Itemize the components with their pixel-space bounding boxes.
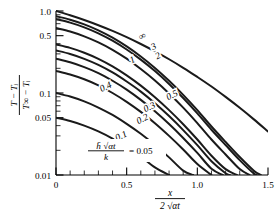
- x-axis-label-denominator: 2 √αt: [160, 201, 180, 211]
- y-axis-tick-label: 1.0: [40, 7, 52, 17]
- semi-infinite-solid-temperature-chart: 1.00.50.10.050.0100.51.01.50.10.10.20.20…: [0, 0, 278, 219]
- x-axis-tick-label: 1.5: [262, 180, 274, 190]
- plot-area: 1.00.50.10.050.0100.51.01.50.10.10.20.20…: [9, 7, 274, 211]
- x-axis-label-numerator: x: [167, 188, 173, 198]
- x-axis-tick-label: 0.5: [121, 180, 133, 190]
- x-axis-label: x2 √αt: [155, 188, 185, 211]
- y-axis-label-numerator: T − Tᵢ: [9, 83, 19, 106]
- annotation-numerator: h̄ √αt: [96, 141, 116, 151]
- x-axis-tick-label: 1.0: [192, 180, 204, 190]
- y-axis-label-denominator: T∞ − Tᵢ: [21, 80, 31, 110]
- chart-root: 1.00.50.10.050.0100.51.01.50.10.10.20.20…: [0, 0, 278, 219]
- parameter-annotation: h̄ √αtk= 0.05: [74, 139, 166, 162]
- y-axis-label: T − TᵢT∞ − Tᵢ: [9, 75, 31, 115]
- y-axis-tick-label: 0.05: [35, 113, 51, 123]
- curve-label-0p2: 0.2: [135, 112, 150, 126]
- curve-label-infinity: ∞: [137, 30, 148, 42]
- y-axis-tick-label: 0.01: [35, 171, 51, 181]
- y-axis-tick-label: 0.1: [40, 89, 52, 99]
- x-axis-tick-label: 0: [54, 180, 59, 190]
- annotation-value: = 0.05: [129, 146, 153, 156]
- y-axis-tick-label: 0.5: [40, 31, 52, 41]
